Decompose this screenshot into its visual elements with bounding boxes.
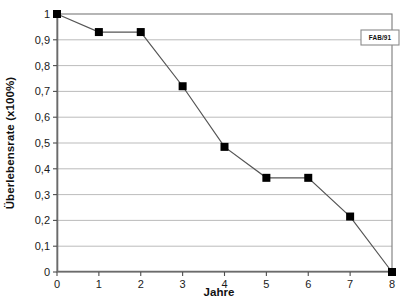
series-marker [221,143,229,151]
x-tick-label: 7 [347,278,353,290]
legend-label: FAB/91 [369,34,392,41]
y-axis-tick-labels: 00,10,20,30,40,50,60,70,80,91 [35,8,50,278]
y-tick-label: 0,9 [35,34,50,46]
x-axis-ticks [57,272,392,276]
x-tick-label: 2 [138,278,144,290]
y-tick-label: 0,1 [35,240,50,252]
y-tick-label: 0,2 [35,214,50,226]
y-axis-ticks [53,14,57,272]
series-marker [346,213,354,221]
x-tick-label: 1 [96,278,102,290]
series-marker [262,174,270,182]
x-tick-label: 0 [54,278,60,290]
series-marker [137,28,145,36]
x-tick-label: 5 [263,278,269,290]
series-marker [95,28,103,36]
series-marker [388,268,396,276]
legend[interactable]: FAB/91 [361,30,399,45]
y-tick-label: 0,7 [35,85,50,97]
x-tick-label: 8 [389,278,395,290]
x-axis-title: Jahre [203,286,234,298]
series-marker [179,82,187,90]
y-tick-label: 0,8 [35,60,50,72]
series-marker [304,174,312,182]
x-tick-label: 3 [180,278,186,290]
y-tick-label: 0,4 [35,163,50,175]
y-tick-label: 0,6 [35,111,50,123]
y-tick-label: 0 [44,266,50,278]
y-tick-label: 0,3 [35,189,50,201]
survival-curve-chart: 00,10,20,30,40,50,60,70,80,91 012345678 … [0,0,417,305]
y-tick-label: 0,5 [35,137,50,149]
x-tick-label: 6 [305,278,311,290]
y-axis-title: Überlebensrate (x100%) [4,77,16,210]
y-tick-label: 1 [44,8,50,20]
chart-figure: 00,10,20,30,40,50,60,70,80,91 012345678 … [0,0,417,305]
series-marker [53,10,61,18]
